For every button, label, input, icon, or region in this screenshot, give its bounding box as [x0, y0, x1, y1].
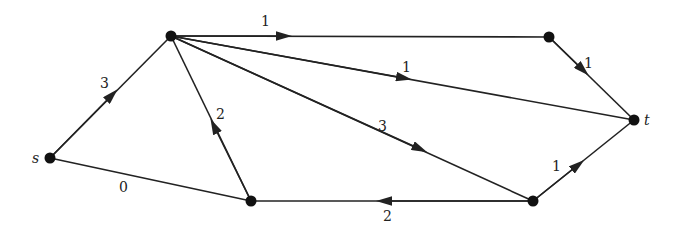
node-c [528, 196, 539, 207]
graph-diagram: s t 3 0 2 1 1 3 1 1 2 [0, 0, 673, 233]
weight-a-b: 1 [261, 13, 270, 29]
node-d [246, 196, 257, 207]
node-label-s: s [32, 150, 39, 166]
node-a [166, 31, 177, 42]
weight-c-d: 2 [383, 208, 392, 224]
weight-a-c: 3 [378, 118, 387, 134]
edge-s-d [50, 158, 251, 201]
weight-s-d: 0 [119, 179, 128, 195]
weight-c-t: 1 [552, 158, 561, 174]
node-t [629, 115, 640, 126]
weight-a-t: 1 [402, 59, 411, 75]
node-s [45, 153, 56, 164]
node-label-t: t [644, 112, 650, 128]
weight-b-t: 1 [584, 55, 593, 71]
weight-d-a: 2 [216, 106, 225, 122]
weight-s-a: 3 [100, 75, 109, 91]
node-b [544, 32, 555, 43]
